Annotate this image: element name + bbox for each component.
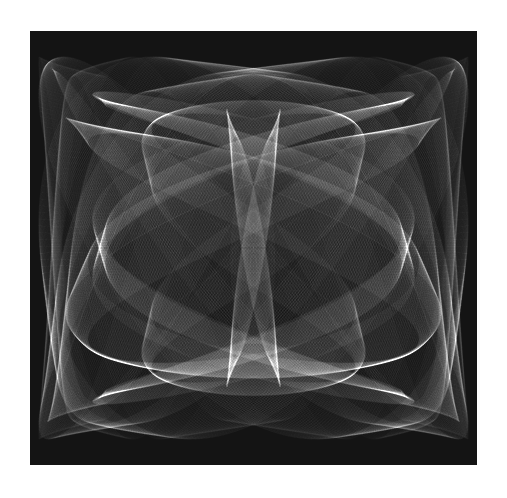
artwork-canvas [30,31,477,465]
generative-artwork: Generative monochrome line art: layered … [30,31,477,465]
